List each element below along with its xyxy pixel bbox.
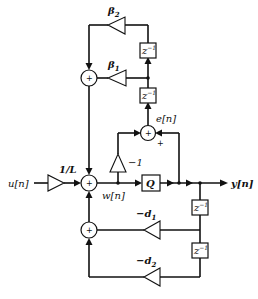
summer-symbol: +	[145, 129, 152, 138]
beta2-label: β2	[107, 5, 120, 19]
d1-label: −d1	[136, 208, 156, 222]
arrow-icon	[86, 168, 93, 175]
summer-symbol: +	[86, 226, 93, 235]
arrow-icon	[135, 180, 142, 187]
input-scale-label: 1/L	[59, 164, 77, 175]
gain-beta2	[108, 17, 125, 34]
gain-d2	[144, 268, 160, 286]
arrow-icon	[167, 180, 174, 187]
summer-symbol: +	[86, 74, 93, 83]
output-label: y[n]	[230, 178, 254, 189]
gain-d1	[144, 221, 160, 239]
summer-symbol: +	[86, 179, 93, 188]
arrow-icon	[86, 238, 93, 245]
block-diagram: Q z−1 z−1 z−1 z−1 + + + + + u[n] y[n] 1/…	[0, 0, 258, 299]
e-label: e[n]	[156, 113, 176, 124]
gain-input-scale	[48, 175, 64, 191]
d2-label: −d2	[136, 255, 156, 269]
beta1-label: β1	[107, 59, 120, 73]
arrow-icon	[86, 191, 93, 198]
summer-plus-sign: +	[157, 139, 164, 148]
w-label: w[n]	[102, 190, 125, 201]
arrow-icon	[220, 180, 228, 187]
neg-one-label: −1	[128, 157, 143, 168]
arrow-icon	[186, 180, 193, 187]
gain-neg-one	[110, 154, 126, 172]
quantizer-label: Q	[146, 178, 155, 189]
arrow-icon	[74, 180, 81, 187]
arrow-icon	[86, 63, 93, 70]
input-label: u[n]	[8, 178, 29, 189]
